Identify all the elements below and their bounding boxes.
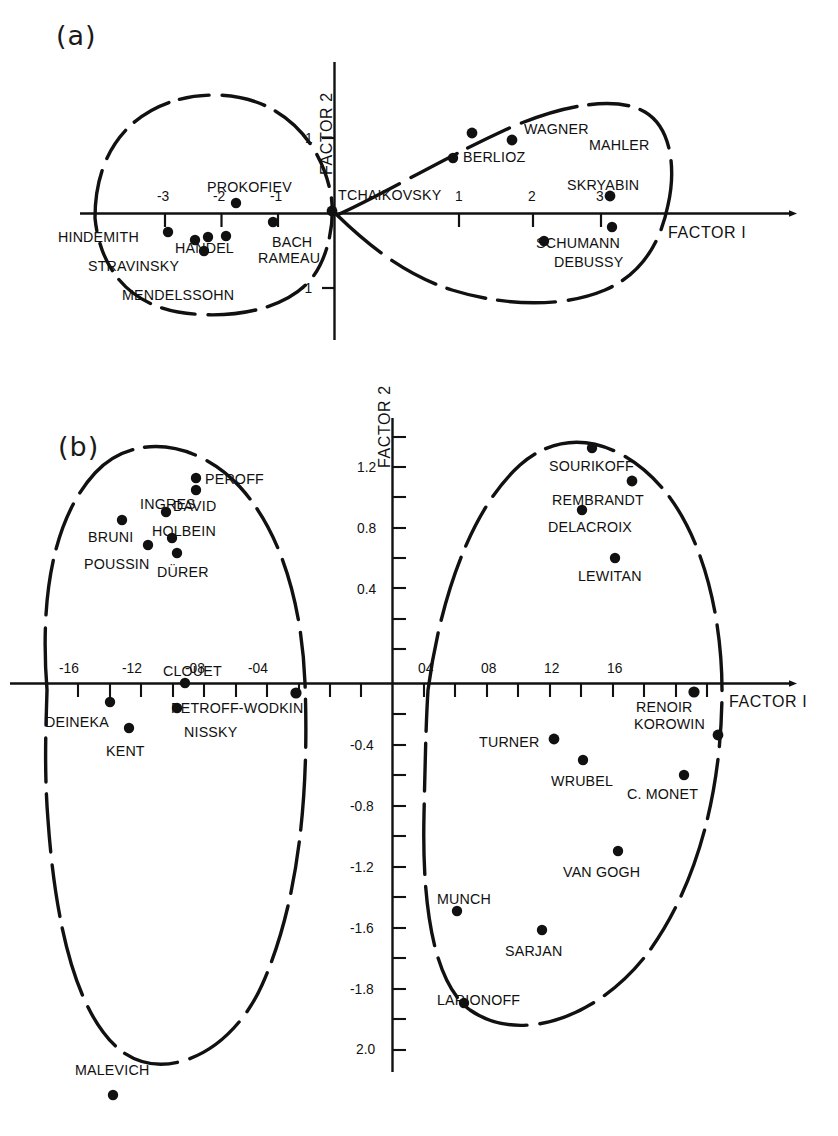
point-label-debussy: DEBUSSY [554,253,623,271]
point-label-poussin: POUSSIN [84,555,149,573]
point-label-holbein: HOLBEIN [152,522,216,540]
point-label-skryabin: SKRYABIN [567,176,639,194]
panel-b-y-ticks [393,437,407,1050]
panel-b-ytick-2.0: 2.0 [356,1040,375,1057]
panel-a-x-ticks [165,214,601,228]
point-label-bach: BACH [272,233,312,251]
panel-b-ytick--1.2: -1.2 [350,858,374,875]
point-label-deineka: DEINEKA [45,713,109,731]
panel-b-tag: (b) [58,431,99,462]
point-label-munch: MUNCH [437,890,491,908]
point-label-mendelssohn: MENDELSSOHN [122,286,234,304]
point-label-sourikoff: SOURIKOFF [549,457,634,475]
panel-a-xtick--3: -3 [157,187,169,204]
panel-a-tag: (a) [56,20,97,51]
point-label-tchaikovsky: TCHAIKOVSKY [338,186,441,204]
point-label-korowin: KOROWIN [634,715,705,733]
point-label-nissky: NISSKY [184,723,237,741]
point-label-prokofiev: PROKOFIEV [207,178,292,196]
point-label-berlioz: BERLIOZ [463,148,525,166]
panel-b-x-ticks [47,684,707,698]
panel-b-xtick-08: 08 [481,659,496,676]
point-label-wagner: WAGNER [524,120,589,138]
figure-root: (a) (b) FACTOR 2 FACTOR I -3 -2 -1 1 2 3… [0,0,838,1136]
panel-a-ytick--1: -1 [300,279,312,296]
point-label-wrubel: WRUBEL [551,772,613,790]
point-label-sarjan: SARJAN [505,942,562,960]
point-label-peroff: PEROFF [205,470,264,488]
point-label-hindemith: HINDEMITH [58,228,139,246]
panel-b-ytick-1.2: 1.2 [357,458,376,475]
panel-b-x-axis-label: FACTOR I [729,693,807,711]
panel-a-left-cluster-outline [95,95,332,315]
point-label-schumann: SCHUMANN [536,234,620,252]
point-label-c-monet: C. MONET [627,785,698,803]
panel-b-xtick-04: 04 [418,659,433,676]
panel-b-xtick-12: 12 [544,659,559,676]
point-label-mahler: MAHLER [589,136,650,154]
point-label-delacroix: DELACROIX [548,518,632,536]
panel-b-xtick--16: -16 [59,659,79,676]
point-label-rembrandt: REMBRANDT [552,491,644,509]
panel-b-xtick-16: 16 [607,659,622,676]
panel-a-xtick-2: 2 [528,187,536,204]
point-label-clouet: CLOUET [163,662,222,680]
panel-b-ytick-0.4: 0.4 [357,580,376,597]
point-label-stravinsky: STRAVINSKY [88,257,179,275]
point-label-van-gogh: VAN GOGH [563,863,640,881]
point-label-ingres: INGRES [140,495,196,513]
panel-b-points [105,443,724,1100]
panel-a-y-axis-label: FACTOR 2 [318,92,336,175]
panel-b-xtick--12: -12 [122,659,142,676]
panel-b-ytick--1.8: -1.8 [350,980,374,997]
point-label-turner: TURNER [479,733,540,751]
point-label-malevich: MALEVICH [75,1061,149,1079]
point-label-durer: DÜRER [157,563,209,581]
point-label-petroff-wodkin: PETROFF-WODKIN [171,699,303,717]
panel-b-ytick--0.8: -0.8 [350,797,374,814]
point-label-renoir: RENOIR [636,698,693,716]
panel-b-ytick--1.6: -1.6 [350,919,374,936]
point-label-lewitan: LEWITAN [578,567,642,585]
point-label-bruni: BRUNI [88,528,133,546]
panel-b-xtick--04: -04 [248,659,268,676]
panel-b-ytick-0.8: 0.8 [357,519,376,536]
panel-a-xtick-1: 1 [455,187,463,204]
point-label-kent: KENT [106,742,145,760]
panel-a-ytick-1: 1 [305,129,313,146]
point-label-rameau: RAMEAU [258,249,320,267]
panel-b-ytick--0.4: -0.4 [350,736,374,753]
panel-a-x-axis-label: FACTOR I [668,224,746,242]
point-label-larionoff: LARIONOFF [437,991,520,1009]
panel-b-y-axis-label: FACTOR 2 [376,385,394,468]
point-label-handel: HANDEL [175,239,234,257]
